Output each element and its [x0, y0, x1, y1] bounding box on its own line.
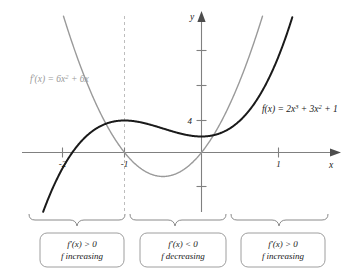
interval-box-left-line2: fincreasing — [61, 251, 104, 261]
y-axis-label: y — [189, 12, 195, 22]
y-tick-label-4: 4 — [188, 116, 193, 126]
interval-box-right: f′(x) > 0 fincreasing — [241, 233, 325, 267]
x-axis-label: x — [328, 160, 334, 170]
derivative-label-tail: + 6x — [69, 74, 90, 84]
derivative-sign-figure: -2 -1 1 4 x y f′(x) = 6x2 + 6x f(x) = 2x… — [0, 0, 355, 279]
derivative-label-arg: (x) = 6x — [35, 74, 66, 85]
function-label-tail: + 1 — [322, 104, 338, 114]
interval-box-right-line2: fincreasing — [262, 251, 305, 261]
function-label-mid: + 3x — [298, 104, 319, 114]
interval-box-right-line1: f′(x) > 0 — [268, 239, 298, 249]
x-tick-label-pos1: 1 — [276, 159, 281, 169]
x-tick-label-neg2: -2 — [59, 159, 67, 169]
x-tick-label-neg1: -1 — [121, 159, 129, 169]
interval-box-middle-line1: f′(x) < 0 — [168, 239, 198, 249]
interval-box-middle-line2: fdecreasing — [161, 251, 205, 261]
interval-box-left: f′(x) > 0 fincreasing — [40, 233, 124, 267]
interval-box-middle: f′(x) < 0 fdecreasing — [140, 233, 226, 267]
interval-box-left-line1: f′(x) > 0 — [67, 239, 97, 249]
derivative-curve-label: f′(x) = 6x2 + 6x — [18, 73, 96, 85]
function-label-head: f(x) = 2x — [262, 104, 296, 115]
